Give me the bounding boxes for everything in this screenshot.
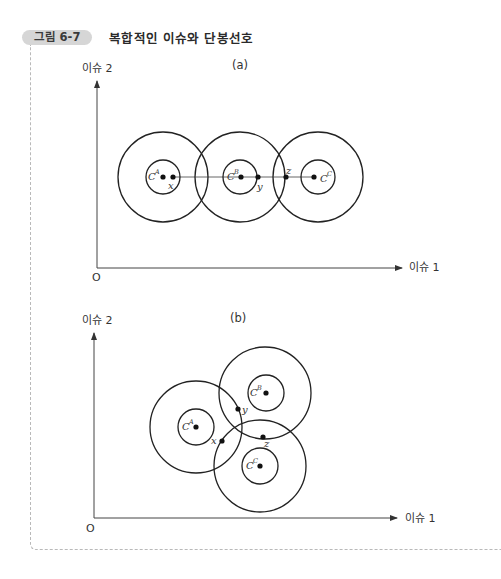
ideal-point-C	[257, 463, 262, 468]
point-x-label: x	[211, 435, 217, 446]
point-y	[235, 406, 240, 411]
panel-b-label: (b)	[230, 311, 246, 325]
ideal-point-B	[238, 174, 243, 179]
panel-b-circle-B: C B	[219, 347, 311, 439]
ideal-sup-B: B	[233, 168, 239, 176]
panel-a-label: (a)	[232, 58, 248, 72]
point-y-label: y	[241, 404, 248, 415]
point-x	[219, 438, 224, 443]
panel-a-y-axis-label: 이슈 2	[82, 62, 113, 75]
panel-b-origin-label: O	[86, 522, 95, 535]
ideal-sup-B: B	[256, 384, 262, 392]
point-x-label: x	[168, 180, 174, 191]
panel-b-circle-A: C A	[150, 381, 242, 473]
panel-a-x-axis-label: 이슈 1	[409, 261, 440, 274]
ideal-sup-A: A	[154, 168, 160, 176]
panel-a-origin-label: O	[92, 271, 101, 284]
panel-b-x-axis-label: 이슈 1	[405, 512, 436, 525]
panel-b-circle-C: C C	[214, 420, 306, 512]
ideal-sup-C: C	[253, 457, 258, 465]
panel-b: (b) 이슈 2 이슈 1 O C A C B C C x	[82, 311, 436, 535]
ideal-point-C	[311, 174, 316, 179]
ideal-sup-A: A	[188, 418, 194, 426]
point-z-label: z	[285, 165, 292, 176]
point-y-label: y	[256, 181, 263, 192]
panel-a: (a) 이슈 2 이슈 1 O C A C B C C x	[82, 58, 440, 284]
ideal-sup-C: C	[327, 170, 332, 178]
ideal-point-A	[160, 174, 165, 179]
point-x	[170, 174, 175, 179]
ideal-point-A	[193, 424, 198, 429]
panel-b-y-axis-label: 이슈 2	[82, 314, 113, 327]
point-y	[255, 174, 260, 179]
point-z-label: z	[263, 438, 270, 449]
ideal-point-B	[263, 390, 268, 395]
